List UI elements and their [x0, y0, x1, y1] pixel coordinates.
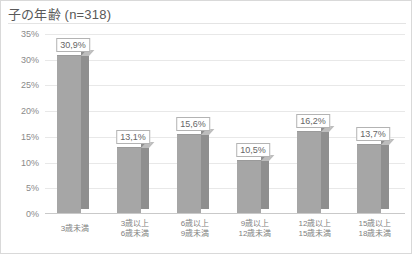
x-axis-category-label: 15歳以上18歳未満 [345, 219, 405, 239]
bar[interactable] [57, 55, 89, 214]
category-label-line: 3歳以上 [105, 219, 165, 229]
chart-container: 子の年齢 (n=318) 0%5%10%15%20%25%30%35% 30,9… [0, 0, 412, 254]
category-label-line: 9歳未満 [165, 229, 225, 239]
bar-side-face [321, 126, 329, 209]
bar-side-face [141, 142, 149, 209]
bar-front-face [117, 147, 142, 214]
x-axis-line [45, 213, 405, 214]
bar-front-face [57, 55, 82, 214]
chart-title: 子の年齢 (n=318) [8, 4, 111, 23]
x-axis-category-label: 9歳以上12歳未満 [225, 219, 285, 239]
y-axis-tick-label: 15% [21, 132, 39, 142]
bar[interactable] [357, 144, 389, 214]
category-label-line: 15歳未満 [285, 229, 345, 239]
x-axis-category-label: 3歳以上6歳未満 [105, 219, 165, 239]
bar-front-face [237, 160, 262, 214]
bar[interactable] [177, 134, 209, 214]
bar[interactable] [297, 131, 329, 214]
y-axis-tick-label: 20% [21, 106, 39, 116]
y-axis-tick-label: 25% [21, 80, 39, 90]
bar-side-face [381, 139, 389, 209]
bar-data-label: 13,7% [356, 127, 390, 141]
category-label-line: 6歳未満 [105, 229, 165, 239]
x-axis-category-label: 3歳未満 [45, 224, 105, 234]
y-axis-tick-label: 10% [21, 158, 39, 168]
bar-front-face [297, 131, 322, 214]
bar-slot: 15,6% [177, 34, 209, 214]
bar[interactable] [237, 160, 269, 214]
title-divider [8, 23, 406, 24]
category-label-line: 18歳未満 [345, 229, 405, 239]
bar-data-label: 13,1% [116, 130, 150, 144]
bar-data-label: 10,5% [236, 143, 270, 157]
x-axis-category-labels: 3歳未満3歳以上6歳未満6歳以上9歳未満9歳以上12歳未満12歳以上15歳未満1… [45, 219, 405, 251]
category-label-line: 12歳未満 [225, 229, 285, 239]
y-axis-tick-label: 35% [21, 29, 39, 39]
bar-data-label: 30,9% [56, 38, 90, 52]
bar-side-face [261, 155, 269, 209]
bar[interactable] [117, 147, 149, 214]
bar-slot: 30,9% [57, 34, 89, 214]
bar-side-face [201, 129, 209, 209]
x-axis-category-label: 6歳以上9歳未満 [165, 219, 225, 239]
bar-front-face [177, 134, 202, 214]
category-label-line: 6歳以上 [165, 219, 225, 229]
category-label-line: 3歳未満 [45, 224, 105, 234]
category-label-line: 9歳以上 [225, 219, 285, 229]
bar-slot: 13,7% [357, 34, 389, 214]
bar-front-face [357, 144, 382, 214]
plot-area: 0%5%10%15%20%25%30%35% 30,9%13,1%15,6%10… [45, 34, 405, 214]
x-axis-category-label: 12歳以上15歳未満 [285, 219, 345, 239]
bar-slot: 16,2% [297, 34, 329, 214]
y-axis-tick-label: 5% [26, 183, 39, 193]
bar-side-face [81, 50, 89, 209]
y-axis-tick-label: 30% [21, 55, 39, 65]
category-label-line: 15歳以上 [345, 219, 405, 229]
bar-series: 30,9%13,1%15,6%10,5%16,2%13,7% [45, 34, 405, 214]
bar-data-label: 15,6% [176, 117, 210, 131]
category-label-line: 12歳以上 [285, 219, 345, 229]
bar-data-label: 16,2% [296, 114, 330, 128]
bar-slot: 13,1% [117, 34, 149, 214]
y-axis-tick-label: 0% [26, 209, 39, 219]
bar-slot: 10,5% [237, 34, 269, 214]
